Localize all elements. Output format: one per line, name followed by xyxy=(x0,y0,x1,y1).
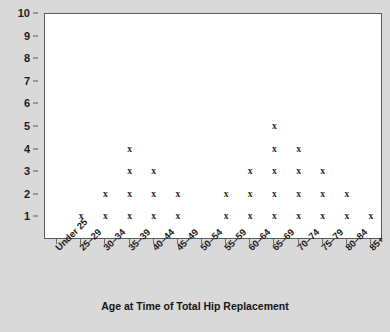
y-tick-label: 1 xyxy=(24,210,30,222)
data-marker: x xyxy=(224,213,229,223)
y-tick-mark xyxy=(33,35,38,36)
data-marker: x xyxy=(272,122,277,132)
y-tick-label: 7 xyxy=(24,75,30,87)
plot-area: xxxxxxxxxxxxxxxxxxxxxxxxxxxxxxxx xyxy=(44,13,382,239)
y-tick-mark xyxy=(33,216,38,217)
y-tick-mark xyxy=(33,80,38,81)
data-marker: x xyxy=(151,167,156,177)
y-tick-label: 3 xyxy=(24,165,30,177)
data-marker: x xyxy=(296,145,301,155)
y-tick-label: 9 xyxy=(24,30,30,42)
data-marker: x xyxy=(175,213,180,223)
data-marker: x xyxy=(296,213,301,223)
data-marker: x xyxy=(344,190,349,200)
data-marker-layer: xxxxxxxxxxxxxxxxxxxxxxxxxxxxxxxx xyxy=(45,14,381,238)
data-marker: x xyxy=(127,213,132,223)
data-marker: x xyxy=(127,145,132,155)
data-marker: x xyxy=(272,213,277,223)
y-tick-mark xyxy=(33,13,38,14)
y-tick-mark xyxy=(33,126,38,127)
y-tick-mark xyxy=(33,193,38,194)
data-marker: x xyxy=(320,213,325,223)
x-axis-tick-labels: Under 2525–2930–3435–3940–4445–4950–5455… xyxy=(44,245,382,297)
data-marker: x xyxy=(296,167,301,177)
data-marker: x xyxy=(369,213,374,223)
data-marker: x xyxy=(103,190,108,200)
y-tick-label: 6 xyxy=(24,97,30,109)
y-tick-mark xyxy=(33,171,38,172)
y-tick-mark xyxy=(33,148,38,149)
y-tick-mark xyxy=(33,58,38,59)
data-marker: x xyxy=(248,167,253,177)
y-tick-label: 5 xyxy=(24,120,30,132)
data-marker: x xyxy=(151,213,156,223)
y-tick-mark xyxy=(33,103,38,104)
data-marker: x xyxy=(127,190,132,200)
data-marker: x xyxy=(272,190,277,200)
data-marker: x xyxy=(248,190,253,200)
data-marker: x xyxy=(127,167,132,177)
data-marker: x xyxy=(320,190,325,200)
data-marker: x xyxy=(151,190,156,200)
data-marker: x xyxy=(296,190,301,200)
data-marker: x xyxy=(272,145,277,155)
data-marker: x xyxy=(248,213,253,223)
y-tick-label: 4 xyxy=(24,143,30,155)
y-tick-label: 10 xyxy=(18,7,30,19)
dot-plot-chart: 12345678910 xxxxxxxxxxxxxxxxxxxxxxxxxxxx… xyxy=(0,0,390,332)
data-marker: x xyxy=(175,190,180,200)
data-marker: x xyxy=(224,190,229,200)
data-marker: x xyxy=(272,167,277,177)
y-axis: 12345678910 xyxy=(0,13,38,239)
data-marker: x xyxy=(344,213,349,223)
y-tick-label: 2 xyxy=(24,188,30,200)
data-marker: x xyxy=(103,213,108,223)
data-marker: x xyxy=(320,167,325,177)
y-tick-label: 8 xyxy=(24,52,30,64)
x-axis-title: Age at Time of Total Hip Replacement xyxy=(0,300,390,312)
